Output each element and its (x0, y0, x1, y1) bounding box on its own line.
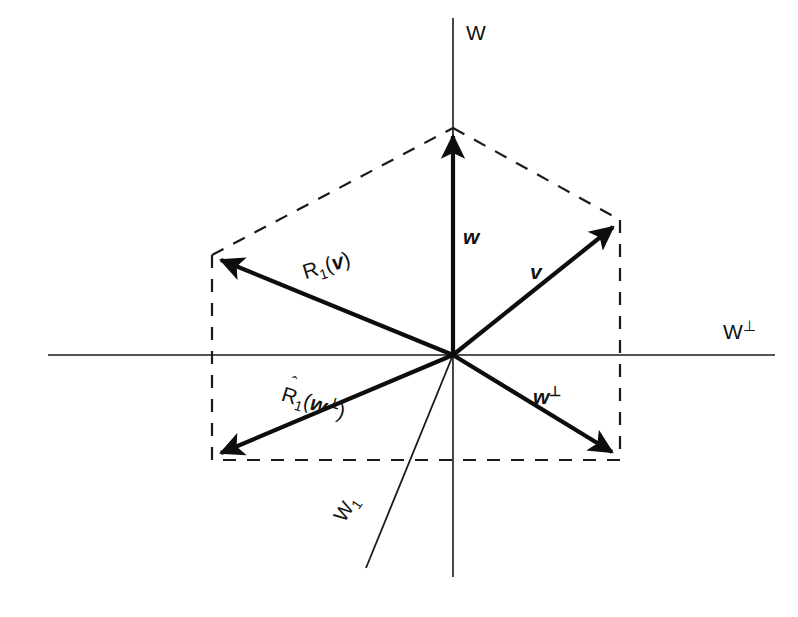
figure-canvas: W W⊥ w v w⊥ R1(v) ˆR1(w⊥) W1 (0, 0, 798, 617)
axis-label-W-perp: W⊥ (723, 318, 756, 342)
perp-symbol-icon: ⊥ (743, 317, 756, 334)
vector-label-w-perp: w⊥ (533, 384, 561, 407)
axis-label-W-perp-main: W (723, 320, 743, 343)
map-argument-v: v (328, 249, 346, 274)
map-index-1: 1 (317, 265, 329, 283)
axis-label-W: W (466, 22, 486, 43)
vector-label-w-perp-main: w (533, 385, 549, 408)
perp-symbol-icon: ⊥ (326, 394, 342, 413)
vector-diagram (0, 0, 798, 617)
perp-symbol-icon: ⊥ (549, 383, 561, 399)
vector-label-w: w (463, 226, 479, 247)
axis-group (48, 18, 775, 577)
vector-label-v: v (530, 261, 542, 282)
dashed-construction-outline (212, 128, 620, 460)
